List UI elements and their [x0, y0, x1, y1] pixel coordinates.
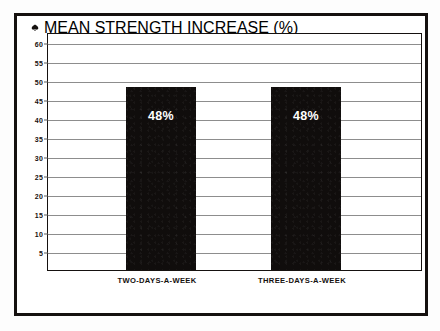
y-axis-tick-label: 55 [35, 59, 43, 66]
chart-outer-frame: MEAN STRENGTH INCREASE (%) 6055504540353… [14, 13, 428, 316]
y-gridline [48, 63, 421, 64]
x-axis-category-label: THREE-DAYS-A-WEEK [258, 276, 346, 285]
y-axis-tick-mark [44, 62, 48, 63]
plot-inner: 6055504540353025201510548%48% [48, 34, 421, 270]
y-axis-tick-label: 5 [39, 249, 43, 256]
y-axis-tick-label: 35 [35, 135, 43, 142]
y-gridline [48, 177, 421, 178]
plot-area: 6055504540353025201510548%48% [47, 33, 422, 271]
y-axis-tick-label: 20 [35, 192, 43, 199]
x-axis-category-label: TWO-DAYS-A-WEEK [117, 276, 196, 285]
figure-root: MEAN STRENGTH INCREASE (%) 6055504540353… [0, 0, 440, 331]
bar: 48% [126, 87, 196, 270]
y-axis-tick-mark [44, 81, 48, 82]
y-gridline [48, 139, 421, 140]
y-axis-tick-mark [44, 100, 48, 101]
y-axis-tick-mark [44, 43, 48, 44]
y-axis-tick-label: 25 [35, 173, 43, 180]
filled-diamond-marker-icon [31, 24, 39, 32]
y-axis-tick-mark [44, 195, 48, 196]
y-axis-tick-label: 40 [35, 116, 43, 123]
y-axis-tick-label: 10 [35, 230, 43, 237]
y-axis-tick-mark [44, 157, 48, 158]
y-axis-tick-mark [44, 214, 48, 215]
y-gridline [48, 101, 421, 102]
y-axis-tick-mark [44, 252, 48, 253]
y-gridline [48, 234, 421, 235]
y-gridline [48, 215, 421, 216]
y-gridline [48, 44, 421, 45]
y-axis-tick-mark [44, 176, 48, 177]
y-gridline [48, 196, 421, 197]
y-gridline [48, 120, 421, 121]
y-axis-tick-mark [44, 138, 48, 139]
y-axis-tick-label: 30 [35, 154, 43, 161]
bar-value-label: 48% [293, 109, 319, 123]
bar-value-label: 48% [148, 109, 174, 123]
y-gridline [48, 158, 421, 159]
bar: 48% [271, 87, 341, 270]
y-axis-tick-label: 60 [35, 40, 43, 47]
y-axis-tick-label: 50 [35, 78, 43, 85]
y-axis-tick-label: 45 [35, 97, 43, 104]
y-axis-tick-label: 15 [35, 211, 43, 218]
y-gridline [48, 82, 421, 83]
y-gridline [48, 253, 421, 254]
y-axis-tick-mark [44, 119, 48, 120]
y-axis-tick-mark [44, 233, 48, 234]
